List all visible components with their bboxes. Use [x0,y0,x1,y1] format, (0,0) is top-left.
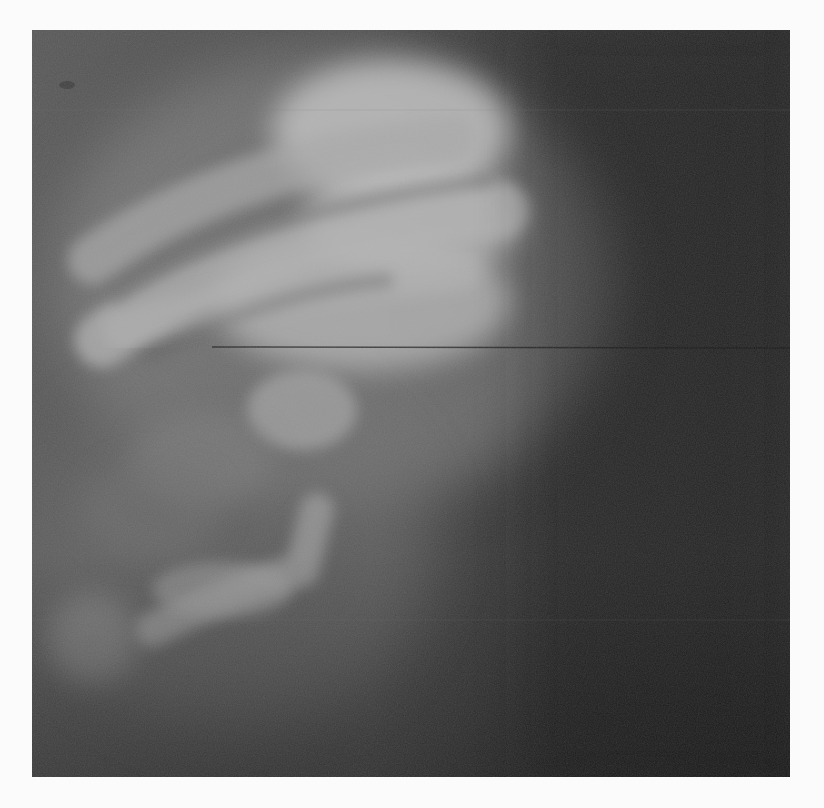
radiograph-image [32,30,790,777]
radiograph-render [32,30,790,777]
